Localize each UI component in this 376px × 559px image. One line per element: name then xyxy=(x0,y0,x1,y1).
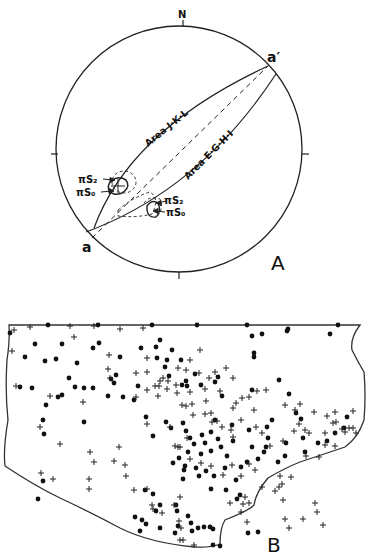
dot-point xyxy=(270,418,275,423)
dot-point xyxy=(238,493,243,498)
cross-point xyxy=(296,421,302,427)
cross-point xyxy=(227,500,233,506)
dot-point xyxy=(67,376,72,381)
dot-point xyxy=(212,474,217,479)
dot-point xyxy=(247,428,252,433)
cross-point xyxy=(111,458,117,464)
cross-point xyxy=(172,443,178,449)
cross-point xyxy=(38,470,44,476)
dot-point xyxy=(60,342,65,347)
dot-point xyxy=(41,479,46,484)
cross-point xyxy=(86,476,92,482)
cross-point xyxy=(242,494,248,500)
dot-point xyxy=(133,515,138,520)
dot-point xyxy=(182,468,187,473)
dot-point xyxy=(41,418,46,423)
cross-point xyxy=(117,326,123,332)
dot-point xyxy=(177,456,182,461)
dot-point xyxy=(239,465,244,470)
stereonet-panel: N πS₂ πS₀ πS₂ πS₀ Area J·K·L Area E·G xyxy=(51,9,309,279)
cross-point xyxy=(144,421,150,427)
cross-point xyxy=(155,393,161,399)
dot-point xyxy=(151,434,156,439)
dot-point xyxy=(158,526,163,531)
dot-point xyxy=(138,529,143,534)
dot-point xyxy=(173,531,178,536)
cross-point xyxy=(160,375,166,381)
dot-point xyxy=(199,383,204,388)
cross-point xyxy=(179,402,185,408)
dot-point xyxy=(169,426,174,431)
dot-point xyxy=(140,518,145,523)
cross-point xyxy=(259,430,265,436)
dot-point xyxy=(139,346,144,351)
cross-point xyxy=(131,487,137,493)
dot-point xyxy=(186,450,191,455)
cross-point xyxy=(87,449,93,455)
dot-point xyxy=(184,379,189,384)
cross-point xyxy=(288,474,294,480)
dot-point xyxy=(256,457,261,462)
cross-point xyxy=(144,387,150,393)
cross-point xyxy=(159,510,165,516)
figure: N πS₂ πS₀ πS₂ πS₀ Area J·K·L Area E·G xyxy=(0,0,376,559)
dot-point xyxy=(328,332,333,337)
cross-point xyxy=(197,347,203,353)
cross-point xyxy=(187,456,193,462)
cross-point xyxy=(220,472,226,478)
dot-point xyxy=(43,359,48,364)
dot-point xyxy=(175,509,180,514)
dot-point xyxy=(196,526,201,531)
dot-point xyxy=(202,525,207,530)
cross-point xyxy=(173,382,179,388)
cross-point xyxy=(174,390,180,396)
dot-point xyxy=(155,356,160,361)
cross-point xyxy=(164,386,170,392)
cross-point xyxy=(282,402,288,408)
dot-point xyxy=(136,384,141,389)
dot-point xyxy=(194,466,199,471)
cross-point xyxy=(286,525,292,531)
dot-point xyxy=(245,323,250,328)
cross-point xyxy=(279,481,285,487)
cross-point xyxy=(246,394,252,400)
cross-point xyxy=(353,430,359,436)
cross-point xyxy=(219,424,225,430)
cross-point xyxy=(91,459,97,465)
dot-point xyxy=(33,342,38,347)
cross-point xyxy=(47,393,53,399)
cross-point xyxy=(254,388,260,394)
dot-point xyxy=(223,466,228,471)
dot-point xyxy=(144,415,149,420)
dot-point xyxy=(180,383,185,388)
dot-point xyxy=(285,329,290,334)
dot-point xyxy=(154,345,159,350)
cross-point xyxy=(230,434,236,440)
arrows xyxy=(101,178,166,214)
cross-point xyxy=(320,522,326,528)
cross-point xyxy=(106,352,112,358)
cross-point xyxy=(332,409,338,415)
cross-point xyxy=(86,486,92,492)
dot-point xyxy=(106,394,111,399)
cross-point xyxy=(276,484,282,490)
cross-point xyxy=(180,537,186,543)
pole-s2-left-contour xyxy=(112,171,136,193)
dot-point xyxy=(246,531,251,536)
map-panel: B xyxy=(4,323,365,557)
cross-point xyxy=(346,425,352,431)
cross-point xyxy=(116,444,122,450)
dot-point xyxy=(301,436,306,441)
cross-point xyxy=(312,500,318,506)
cross-point xyxy=(122,462,128,468)
dot-point xyxy=(171,461,176,466)
cross-point xyxy=(324,413,330,419)
dot-point xyxy=(213,380,218,385)
cross-point xyxy=(206,375,212,381)
filled-circle-points xyxy=(8,323,350,549)
cross-point xyxy=(350,408,356,414)
dot-point xyxy=(46,323,51,328)
cross-point xyxy=(71,334,77,340)
dot-point xyxy=(276,460,281,465)
cross-point xyxy=(246,500,252,506)
